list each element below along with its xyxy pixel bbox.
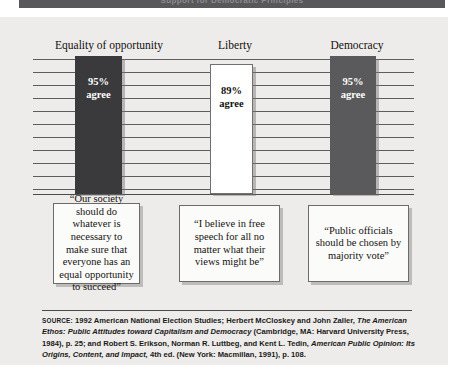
quote-box-liberty: “I believe in free speech for all no mat… <box>179 205 280 282</box>
quote-text-democracy: “Public officials should be chosen by ma… <box>314 225 403 263</box>
bar-liberty: 89% agree <box>210 64 253 194</box>
bar-equality-of-opportunity: 95% agree <box>75 56 122 194</box>
header-bar: Support for Democratic Principles <box>19 0 445 8</box>
figure-panel: Equality of opportunity Liberty Democrac… <box>0 17 448 365</box>
bar-agree-label-equality: agree <box>86 88 110 101</box>
quote-box-democracy: “Public officials should be chosen by ma… <box>308 205 409 282</box>
category-label-democracy: Democracy <box>300 39 414 51</box>
quote-text-equality: “Our society should do whatever is neces… <box>59 193 134 294</box>
figure-container: Support for Democratic Principles Equali… <box>0 0 464 373</box>
bar-value-liberty: 89% <box>221 84 242 97</box>
bar-agree-label-democracy: agree <box>341 88 365 101</box>
category-label-equality: Equality of opportunity <box>33 39 185 51</box>
bar-agree-label-liberty: agree <box>219 97 243 110</box>
quote-box-equality: “Our society should do whatever is neces… <box>53 203 140 284</box>
bar-value-democracy: 95% <box>343 75 364 88</box>
source-middle-2: 4th ed. (New York: Macmillan, 1991), p. … <box>148 350 306 359</box>
header-bar-title: Support for Democratic Principles <box>19 0 445 5</box>
source-label: SOURCE: <box>42 317 73 324</box>
bar-democracy: 95% agree <box>330 56 376 194</box>
source-divider <box>42 310 412 311</box>
source-line1: 1992 American National Election Studies;… <box>73 316 357 325</box>
category-label-liberty: Liberty <box>185 39 285 51</box>
quote-text-liberty: “I believe in free speech for all no mat… <box>185 218 274 268</box>
bar-value-equality: 95% <box>88 75 109 88</box>
source-note: SOURCE: 1992 American National Election … <box>42 315 418 360</box>
